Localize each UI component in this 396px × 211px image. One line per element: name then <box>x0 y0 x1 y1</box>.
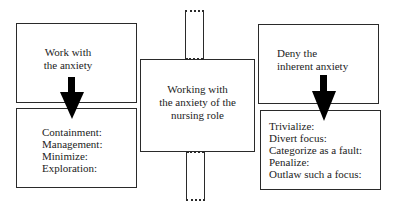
down-arrow-icon <box>0 0 396 211</box>
